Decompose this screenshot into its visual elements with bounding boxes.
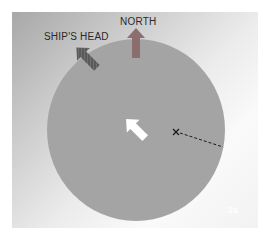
diagram-canvas — [0, 0, 263, 235]
ships-head-label: SHIP'S HEAD — [44, 31, 109, 42]
figure-id-label: 2a — [228, 205, 238, 215]
north-label: NORTH — [120, 16, 156, 27]
